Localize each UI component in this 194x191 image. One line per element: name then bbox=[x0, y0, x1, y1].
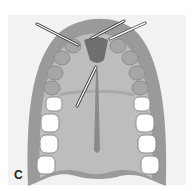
panel-label: C bbox=[14, 168, 23, 182]
dental-arch-diagram: C bbox=[0, 0, 194, 191]
diagram-canvas bbox=[0, 0, 194, 191]
